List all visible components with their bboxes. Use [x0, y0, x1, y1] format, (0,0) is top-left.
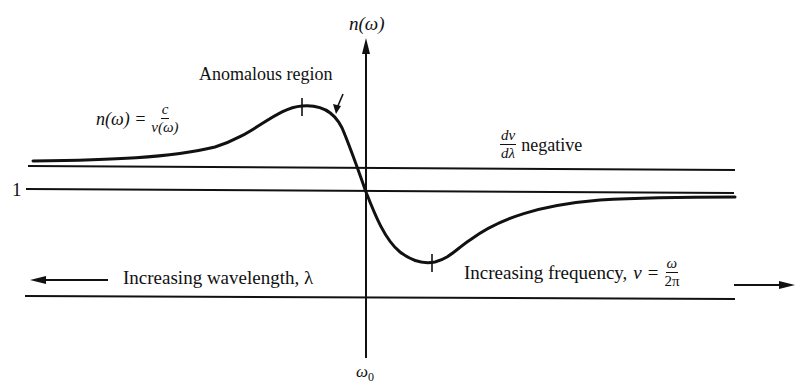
- frequency-denominator: 2π: [664, 273, 679, 289]
- n-formula-numerator: c: [161, 102, 170, 119]
- frequency-numerator: ω: [666, 256, 679, 273]
- n-formula-denominator: v(ω): [151, 119, 178, 135]
- omega-zero-label: ω0: [356, 363, 374, 383]
- unity-line: [26, 189, 734, 193]
- dv-suffix: negative: [521, 136, 582, 154]
- omega-symbol: ω: [356, 362, 368, 381]
- wavelength-arrow-head: [30, 276, 46, 284]
- n-formula-fraction: c v(ω): [151, 102, 178, 135]
- frequency-axis-line: [25, 296, 735, 299]
- anomalous-pointer-head: [333, 104, 341, 114]
- n-axis-arrowhead: [362, 38, 370, 54]
- n-axis-label: n(ω): [349, 14, 385, 33]
- diagram-canvas: [0, 0, 809, 391]
- dv-dlambda-label: dv dλ negative: [500, 128, 582, 161]
- dv-dlambda-fraction: dv dλ: [500, 128, 516, 161]
- upper-reference-line: [28, 166, 735, 170]
- dlambda-denominator: dλ: [501, 145, 515, 161]
- frequency-fraction: ω 2π: [664, 256, 679, 289]
- n-formula-lhs: n(ω) =: [96, 110, 146, 128]
- increasing-wavelength-label: Increasing wavelength, λ: [123, 268, 313, 287]
- omega-subscript: 0: [368, 370, 374, 384]
- unity-label: 1: [12, 180, 22, 199]
- increasing-frequency-text: Increasing frequency,: [464, 263, 627, 282]
- n-formula: n(ω) = c v(ω): [96, 102, 179, 135]
- nu-symbol: ν =: [633, 263, 659, 282]
- dv-numerator: dv: [500, 128, 516, 145]
- frequency-arrow-head: [779, 281, 795, 289]
- anomalous-region-label: Anomalous region: [199, 65, 332, 83]
- increasing-frequency-label: Increasing frequency, ν = ω 2π: [464, 256, 679, 289]
